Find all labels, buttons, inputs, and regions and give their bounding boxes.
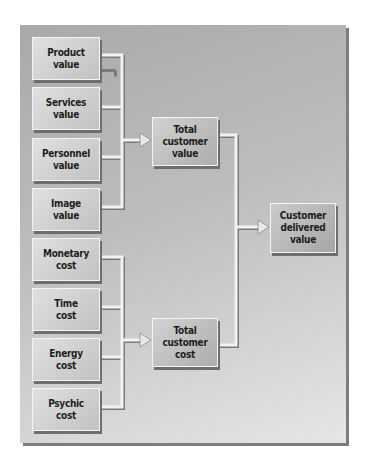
services-value-box: Services value	[32, 87, 100, 130]
time-cost-box: Time cost	[32, 288, 100, 331]
total-customer-value-box: Total customer value	[152, 117, 218, 166]
image-value-box: Image value	[32, 188, 100, 231]
customer-delivered-value-box: Customer delivered value	[270, 203, 336, 253]
total-customer-cost-box: Total customer cost	[152, 318, 218, 367]
psychic-cost-box: Psychic cost	[32, 388, 100, 431]
personnel-value-box: Personnel value	[32, 138, 100, 181]
product-value-box: Product value	[32, 37, 100, 80]
energy-cost-box: Energy cost	[32, 338, 100, 381]
monetary-cost-box: Monetary cost	[32, 238, 100, 281]
